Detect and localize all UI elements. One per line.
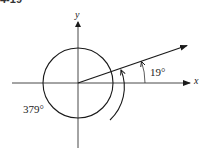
cropped-header-text: 4-19 bbox=[0, 0, 22, 5]
x-axis-label: x bbox=[194, 76, 198, 86]
reference-angle-label: 19° bbox=[150, 67, 165, 78]
diagram-canvas bbox=[0, 0, 203, 157]
angle-diagram: 4-19 y x 19° 379° bbox=[0, 0, 203, 157]
terminal-ray bbox=[78, 46, 187, 84]
y-axis-label: y bbox=[75, 10, 79, 20]
reference-angle-arc bbox=[142, 62, 146, 84]
total-angle-label: 379° bbox=[23, 104, 44, 115]
